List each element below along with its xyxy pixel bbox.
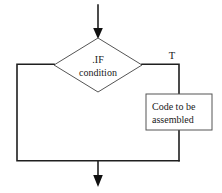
true-branch-top-path: [142, 64, 179, 94]
exit-arrowhead-icon: [93, 175, 103, 187]
flowchart-canvas: .IF condition T Code to be assembled: [0, 0, 222, 193]
decision-node: .IF condition: [54, 38, 142, 92]
process-label-line2: assembled: [152, 114, 194, 125]
process-label-line1: Code to be: [152, 101, 196, 112]
entry-connector: [93, 5, 103, 39]
process-node: Code to be assembled: [146, 94, 212, 130]
true-branch-label: T: [169, 50, 176, 61]
decision-label-line1: .IF: [92, 54, 104, 65]
decision-diamond-shape: [54, 38, 142, 92]
exit-connector: [93, 161, 103, 187]
entry-arrowhead-icon: [93, 28, 103, 39]
flowchart-svg: .IF condition T Code to be assembled: [0, 0, 222, 193]
decision-label-line2: condition: [79, 67, 117, 78]
